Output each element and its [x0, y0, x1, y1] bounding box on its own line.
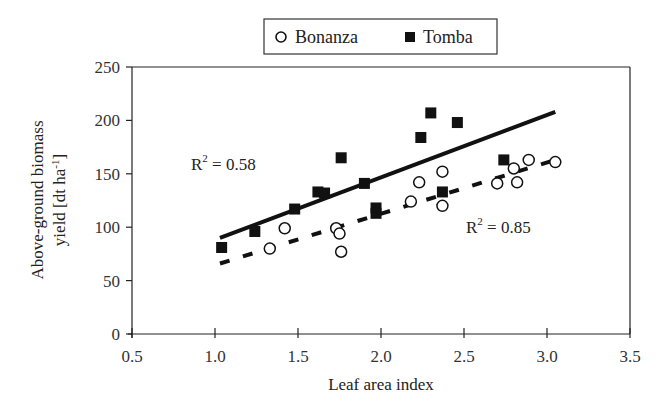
- y-tick-label: 100: [95, 218, 121, 237]
- tomba-point: [425, 107, 436, 118]
- bonanza-point: [336, 246, 347, 257]
- bonanza-marker-icon: [276, 32, 286, 42]
- y-axis-title-line2: yield [dt ha-1]: [49, 154, 69, 246]
- legend-label-tomba: Tomba: [423, 27, 473, 47]
- bonanza-point: [437, 200, 448, 211]
- y-tick-label: 250: [95, 58, 121, 77]
- legend-label-bonanza: Bonanza: [295, 27, 358, 47]
- tomba-point: [437, 186, 448, 197]
- x-tick-label: 3.0: [536, 347, 557, 366]
- bonanza-point: [334, 228, 345, 239]
- x-tick-label: 1.5: [287, 347, 308, 366]
- x-axis-title: Leaf area index: [328, 375, 434, 394]
- x-tick-label: 0.5: [121, 347, 142, 366]
- trendlines: [220, 112, 555, 264]
- tomba-point: [289, 204, 300, 215]
- tomba-r2-label: R2 = 0.58: [191, 152, 256, 174]
- tomba-point: [452, 117, 463, 128]
- tomba-point: [249, 226, 260, 237]
- bonanza-point: [523, 154, 534, 165]
- bonanza-point: [414, 177, 425, 188]
- bonanza-point: [512, 177, 523, 188]
- bonanza-point: [508, 163, 519, 174]
- y-tick-label: 150: [95, 165, 121, 184]
- tomba-point: [359, 178, 370, 189]
- x-tick-label: 2.0: [370, 347, 391, 366]
- tomba-point: [498, 154, 509, 165]
- x-tick-label: 2.5: [453, 347, 474, 366]
- x-tick-label: 1.0: [204, 347, 225, 366]
- y-tick-label: 200: [95, 111, 121, 130]
- bonanza-point: [405, 196, 416, 207]
- legend: Bonanza Tomba: [264, 19, 497, 54]
- scatter-chart: Bonanza Tomba 050100150200250 0.51.01.52…: [0, 0, 661, 416]
- bonanza-point: [279, 223, 290, 234]
- y-tick-label: 0: [112, 325, 121, 344]
- tomba-point: [336, 152, 347, 163]
- y-axis-ticks: 050100150200250: [95, 58, 133, 344]
- bonanza-point: [437, 166, 448, 177]
- bonanza-point: [492, 178, 503, 189]
- tomba-point: [415, 132, 426, 143]
- y-axis-title-line1: Above-ground biomass: [28, 120, 47, 279]
- y-tick-label: 50: [103, 272, 120, 291]
- y-axis-title: Above-ground biomass yield [dt ha-1]: [28, 120, 69, 279]
- tomba-point: [371, 208, 382, 219]
- bonanza-point: [264, 243, 275, 254]
- bonanza-r2-label: R2 = 0.85: [466, 215, 531, 237]
- tomba-point: [216, 242, 227, 253]
- tomba-marker-icon: [405, 32, 415, 42]
- tomba-point: [319, 188, 330, 199]
- x-tick-label: 3.5: [619, 347, 640, 366]
- bonanza-point: [550, 157, 561, 168]
